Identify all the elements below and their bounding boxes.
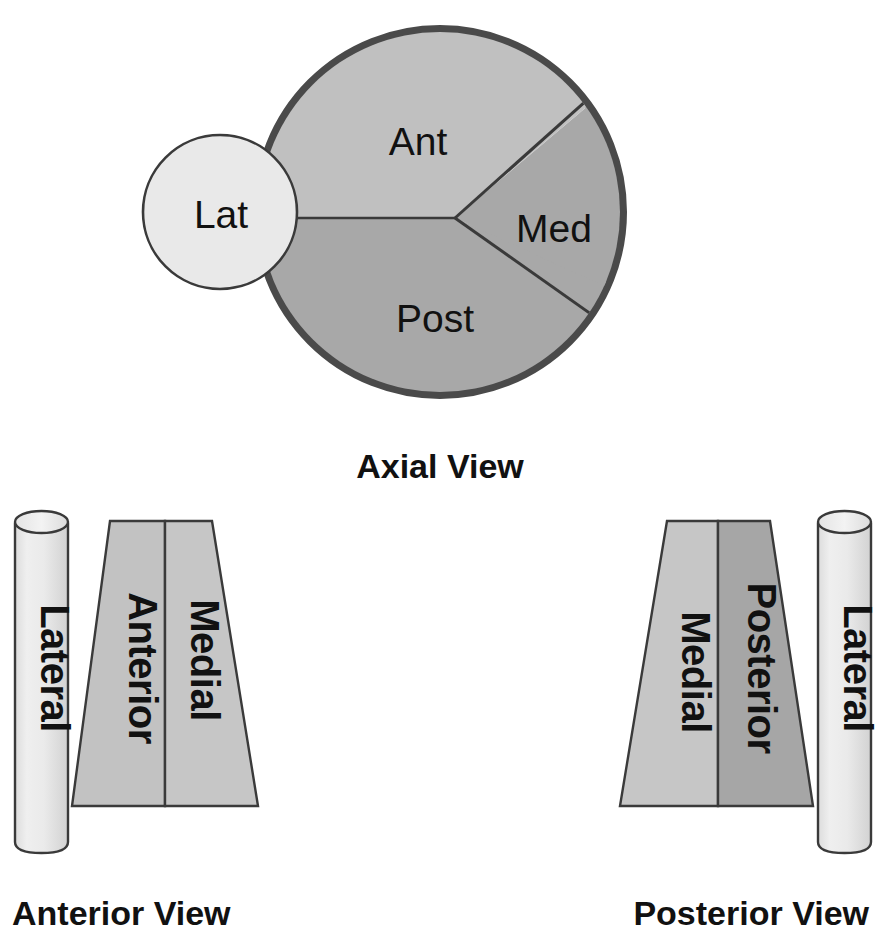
posterior-label-posterior: Posterior — [740, 582, 784, 753]
posterior-cylinder-label-lateral: Lateral — [836, 604, 880, 732]
axial-label-posterior: Post — [396, 297, 474, 340]
compartment-diagram-svg: Ant Med Post Lat Axial View Lateral Ante… — [0, 0, 881, 944]
posterior-label-medial: Medial — [674, 611, 718, 732]
axial-view-caption: Axial View — [356, 447, 524, 485]
anterior-lateral-cylinder-cap — [15, 511, 68, 533]
anterior-label-anterior: Anterior — [121, 592, 165, 744]
axial-view-group: Ant Med Post Lat Axial View — [143, 10, 730, 485]
axial-label-medial: Med — [516, 207, 592, 250]
anterior-view-caption: Anterior View — [12, 894, 231, 932]
diagram-canvas: Ant Med Post Lat Axial View Lateral Ante… — [0, 0, 881, 944]
posterior-view-caption: Posterior View — [633, 894, 869, 932]
anterior-label-medial: Medial — [183, 599, 227, 720]
posterior-view-group: Medial Posterior Lateral Posterior View — [620, 511, 880, 932]
anterior-cylinder-label-lateral: Lateral — [33, 604, 77, 732]
axial-label-anterior: Ant — [389, 120, 448, 163]
posterior-lateral-cylinder-cap — [818, 511, 871, 533]
axial-label-lateral: Lat — [194, 193, 248, 236]
anterior-view-group: Lateral Anterior Medial Anterior View — [12, 511, 258, 932]
